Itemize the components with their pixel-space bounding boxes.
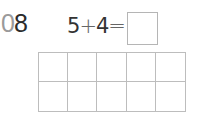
problem-number-prefix: 0 — [1, 9, 14, 37]
ten-frame-cell[interactable] — [39, 53, 68, 82]
ten-frame-cell[interactable] — [39, 82, 68, 111]
equation: 5+4= — [67, 12, 125, 40]
operand-a: 5 — [67, 14, 79, 38]
problem-number: 08 — [1, 8, 27, 38]
ten-frame-cell[interactable] — [127, 53, 156, 82]
operand-b: 4 — [96, 14, 108, 38]
ten-frame-cell[interactable] — [127, 82, 156, 111]
ten-frame-cell[interactable] — [97, 82, 126, 111]
problem-number-main: 8 — [14, 9, 27, 37]
ten-frame-cell[interactable] — [156, 53, 185, 82]
answer-box[interactable] — [127, 12, 158, 45]
ten-frame-cell[interactable] — [97, 53, 126, 82]
ten-frame-cell[interactable] — [68, 82, 97, 111]
plus-sign: + — [79, 14, 96, 38]
ten-frame-cell[interactable] — [68, 53, 97, 82]
ten-frame-cell[interactable] — [156, 82, 185, 111]
ten-frame — [38, 52, 186, 112]
equals-sign: = — [108, 14, 125, 38]
